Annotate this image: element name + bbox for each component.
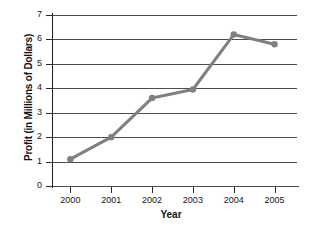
data-point-marker [67, 156, 73, 162]
y-axis-tick [46, 64, 53, 65]
series-line [70, 35, 274, 160]
y-axis-tick-label: 3 [26, 107, 42, 117]
x-axis-tick [70, 187, 71, 193]
data-point-marker [190, 86, 196, 92]
y-axis-tick-label: 0 [26, 180, 42, 190]
y-axis-tick-label: 4 [26, 82, 42, 92]
x-axis-tick-label: 2004 [214, 195, 254, 205]
y-axis-tick-label: 1 [26, 156, 42, 166]
y-axis-tick [46, 113, 53, 114]
x-axis-tick [111, 187, 112, 193]
y-axis-tick-label: 5 [26, 58, 42, 68]
data-point-marker [271, 41, 277, 47]
y-axis-tick [46, 15, 53, 16]
x-axis-title: Year [45, 209, 297, 220]
x-axis-tick-label: 2005 [255, 195, 295, 205]
data-point-marker [231, 31, 237, 37]
y-axis-tick-label: 7 [26, 9, 42, 19]
x-axis-tick [275, 187, 276, 193]
x-axis-tick [193, 187, 194, 193]
data-point-marker [149, 95, 155, 101]
y-axis-tick [46, 186, 53, 187]
x-axis-tick-label: 2000 [50, 195, 90, 205]
y-axis-tick [46, 39, 53, 40]
line-chart: Profit (in Millions of Dollars) Year 012… [0, 0, 309, 232]
x-axis-tick-label: 2003 [173, 195, 213, 205]
y-axis-tick-label: 6 [26, 33, 42, 43]
x-axis-tick-label: 2001 [91, 195, 131, 205]
y-axis-tick [46, 137, 53, 138]
x-axis-tick [234, 187, 235, 193]
y-axis-tick [46, 88, 53, 89]
x-axis-tick-label: 2002 [132, 195, 172, 205]
x-axis-tick [152, 187, 153, 193]
data-point-marker [108, 134, 114, 140]
y-axis-tick [46, 162, 53, 163]
y-axis-tick-label: 2 [26, 131, 42, 141]
